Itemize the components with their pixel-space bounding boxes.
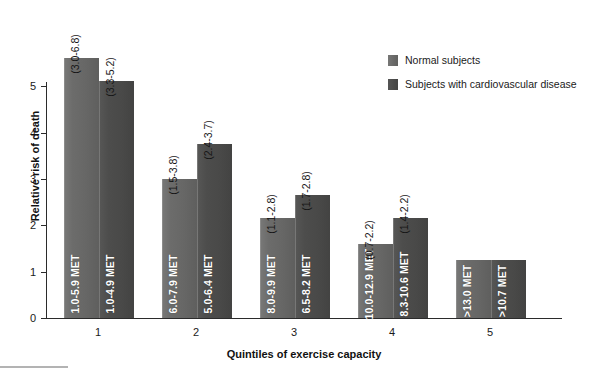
bar-q4-normal: 10.0-12.9 MET (0.7-2.2) [358, 244, 392, 318]
bar-q2-cvd-met-label: 5.0-6.4 MET [202, 255, 214, 314]
bar-q5-cvd: >10.7 MET [491, 260, 525, 318]
bar-q4-cvd: 8.3-10.6 MET (1.4-2.2) [393, 218, 427, 318]
figure-canvas: 5 4 3 2 1 0 Relative risk of death Quint… [0, 0, 601, 374]
legend-item-cvd-subjects: Subjects with cardiovascular disease [388, 78, 577, 90]
bar-q5-cvd-met-label: >10.7 MET [496, 265, 508, 318]
y-tick-4 [41, 133, 47, 134]
y-tick-3 [41, 179, 47, 180]
cvd-subjects-swatch-icon [388, 79, 398, 90]
bar-q2-normal: 6.0-7.9 MET (1.5-3.8) [162, 179, 196, 318]
bar-q3-normal: 8.0-9.9 MET (1.1-2.8) [260, 218, 294, 318]
y-tick-0 [41, 318, 47, 319]
legend-item-normal-subjects: Normal subjects [388, 54, 577, 66]
x-tick-label-1: 1 [83, 326, 113, 338]
bar-q1-cvd-ci-label: (3.3-5.2) [104, 57, 116, 97]
x-tick-label-3: 3 [279, 326, 309, 338]
bar-q1-cvd-met-label: 1.0-4.9 MET [104, 255, 116, 314]
bar-q2-cvd-ci-label: (2.4-3.7) [202, 120, 214, 160]
x-tick-label-5: 5 [475, 326, 505, 338]
bar-q1-normal-ci-label: (3.0-6.8) [69, 34, 81, 74]
x-axis-title: Quintiles of exercise capacity [46, 348, 562, 360]
y-tick-5 [41, 86, 47, 87]
bar-q2-normal-ci-label: (1.5-3.8) [167, 155, 179, 195]
y-tick-2 [41, 225, 47, 226]
x-axis-line [46, 318, 562, 319]
bar-q1-normal: 1.0-5.9 MET (3.0-6.8) [64, 58, 98, 318]
scan-edge-artifact [0, 366, 68, 368]
x-tick-label-2: 2 [181, 326, 211, 338]
bar-q5-normal: >13.0 MET [456, 260, 490, 318]
bar-q1-cvd: 1.0-4.9 MET (3.3-5.2) [99, 81, 133, 318]
y-tick-label-0: 0 [18, 313, 36, 323]
y-tick-label-1: 1 [18, 267, 36, 277]
bar-q2-cvd: 5.0-6.4 MET (2.4-3.7) [197, 144, 231, 318]
bar-q4-normal-ci-label: (0.7-2.2) [363, 220, 375, 260]
legend-label-normal-subjects: Normal subjects [405, 54, 480, 66]
bar-chart-plot-area: 5 4 3 2 1 0 Relative risk of death Quint… [0, 0, 601, 374]
normal-subjects-swatch-icon [388, 55, 398, 66]
x-tick-label-4: 4 [377, 326, 407, 338]
bar-q3-cvd-met-label: 6.5-8.2 MET [300, 255, 312, 314]
y-tick-1 [41, 272, 47, 273]
bar-q3-normal-ci-label: (1.1-2.8) [265, 194, 277, 234]
legend-label-cvd-subjects: Subjects with cardiovascular disease [405, 78, 577, 90]
chart-legend: Normal subjects Subjects with cardiovasc… [388, 54, 577, 102]
bar-q4-cvd-met-label: 8.3-10.6 MET [398, 252, 410, 317]
y-axis-line [46, 82, 47, 319]
bar-q5-normal-met-label: >13.0 MET [461, 265, 473, 318]
bar-q4-cvd-ci-label: (1.4-2.2) [398, 194, 410, 234]
bar-q3-cvd-ci-label: (1.7-2.8) [300, 171, 312, 211]
y-axis-title: Relative risk of death [29, 71, 41, 261]
bar-q1-normal-met-label: 1.0-5.9 MET [69, 255, 81, 314]
bar-q3-cvd: 6.5-8.2 MET (1.7-2.8) [295, 195, 329, 318]
bar-q2-normal-met-label: 6.0-7.9 MET [167, 255, 179, 314]
bar-q3-normal-met-label: 8.0-9.9 MET [265, 255, 277, 314]
